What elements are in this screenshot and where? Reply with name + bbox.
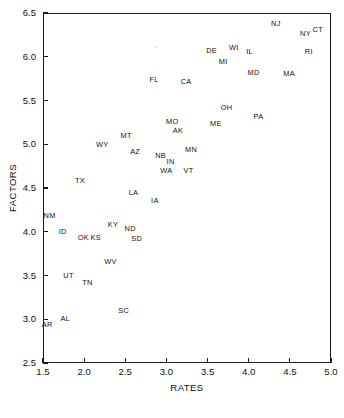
y-axis-tick [43, 144, 48, 145]
data-point-label: OK [78, 234, 89, 241]
x-axis-tick-label: 2.5 [119, 367, 132, 377]
data-point-label: TX [75, 177, 85, 184]
x-axis-tick [330, 358, 331, 363]
y-axis-title: FACTORS [7, 164, 18, 212]
data-point-label: DE [206, 47, 217, 54]
y-axis-tick-label: 3.0 [23, 314, 36, 324]
data-point-label: MO [166, 118, 179, 125]
y-axis-tick-label: 2.5 [23, 358, 36, 368]
y-axis-tick-label: 6.0 [23, 52, 36, 62]
data-point-label: MI [219, 58, 228, 65]
data-point-label: KY [108, 221, 118, 228]
data-point-label: CT [313, 26, 323, 33]
data-point-label: AK [173, 127, 183, 134]
data-point-label: ID [59, 228, 67, 235]
y-axis-tick [43, 56, 48, 57]
scatter-plot-figure: NJNYCTRIWIILDEMIMDMAFLCAOHPAMEMOAKMTWYMN… [0, 0, 344, 418]
data-point-label: LA [129, 190, 139, 197]
x-axis-tick [207, 358, 208, 363]
x-axis-tick [166, 358, 167, 363]
data-point-label: ME [210, 120, 222, 127]
data-point-label: AZ [130, 148, 140, 155]
x-axis-tick [248, 358, 249, 363]
y-axis-tick [43, 319, 48, 320]
x-axis-title: RATES [170, 382, 203, 393]
y-axis-tick-label: 4.5 [23, 183, 36, 193]
data-point-label: WA [160, 167, 172, 174]
data-point-label: UT [63, 273, 73, 280]
data-point-label: AR [42, 322, 53, 329]
x-axis-tick-label: 5.0 [324, 367, 337, 377]
data-point-label: NM [44, 212, 56, 219]
data-point-label: AL [60, 316, 70, 323]
data-point-label: CA [181, 78, 192, 85]
data-point-label: SC [118, 307, 129, 314]
data-point-label: PA [254, 113, 264, 120]
data-point-label: NB [155, 152, 166, 159]
data-point-label: WI [229, 44, 239, 51]
data-point-label: SD [131, 235, 142, 242]
x-axis-tick-label: 1.5 [36, 367, 49, 377]
y-axis-tick-label: 4.0 [23, 227, 36, 237]
data-point-label: IN [167, 158, 175, 165]
x-axis-tick-label: 4.0 [242, 367, 255, 377]
y-axis-tick [43, 362, 48, 363]
data-point-label: OH [221, 105, 233, 112]
data-point-label: WV [104, 258, 117, 265]
y-axis-tick [43, 12, 48, 13]
y-axis-tick [43, 275, 48, 276]
y-axis-tick-label: 5.5 [23, 96, 36, 106]
y-axis-tick [43, 231, 48, 232]
x-axis-tick [42, 358, 43, 363]
x-axis-tick [289, 358, 290, 363]
x-axis-tick-label: 3.0 [160, 367, 173, 377]
x-axis-tick [84, 358, 85, 363]
plot-area: NJNYCTRIWIILDEMIMDMAFLCAOHPAMEMOAKMTWYMN… [43, 13, 331, 363]
data-point-label: VT [184, 167, 194, 174]
y-axis-tick [43, 187, 48, 188]
print-artifact-speck [155, 47, 156, 48]
y-axis-tick-label: 6.5 [23, 8, 36, 18]
data-point-label: NY [300, 30, 311, 37]
x-axis-tick-label: 2.0 [77, 367, 90, 377]
data-point-label: MD [248, 69, 260, 76]
data-point-label: MN [185, 146, 197, 153]
data-point-label: KS [90, 234, 100, 241]
x-axis-tick [125, 358, 126, 363]
x-axis-tick-label: 3.5 [201, 367, 214, 377]
data-point-label: WY [96, 141, 109, 148]
y-axis-tick-label: 5.0 [23, 139, 36, 149]
data-point-label: MA [283, 71, 295, 78]
data-point-label: FL [149, 77, 158, 84]
x-axis-tick-label: 4.5 [283, 367, 296, 377]
data-point-label: TN [82, 279, 92, 286]
data-point-label: ND [125, 225, 136, 232]
data-point-label: MT [120, 133, 131, 140]
data-point-label: IA [151, 197, 159, 204]
y-axis-tick [43, 100, 48, 101]
y-axis-tick-label: 3.5 [23, 271, 36, 281]
data-point-label: NJ [271, 20, 281, 27]
data-point-label: IL [246, 48, 253, 55]
data-point-label: RI [305, 48, 313, 55]
